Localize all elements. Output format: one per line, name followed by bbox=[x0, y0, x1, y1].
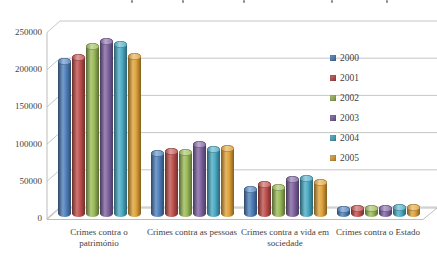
legend-label: 2002 bbox=[340, 93, 359, 103]
cylinder-cap bbox=[272, 184, 285, 191]
cylinder-cap bbox=[207, 146, 220, 153]
legend-swatch-icon bbox=[330, 115, 336, 121]
cylinder-body bbox=[100, 41, 113, 217]
cylinder-body bbox=[314, 183, 327, 218]
y-axis-tick-label: 250000 bbox=[0, 28, 42, 37]
y-axis-tick-label: 0 bbox=[0, 214, 42, 223]
cylinder-cap bbox=[193, 141, 206, 148]
legend-swatch-icon bbox=[330, 95, 336, 101]
legend-swatch-icon bbox=[330, 55, 336, 61]
cylinder-body bbox=[272, 187, 285, 217]
y-axis-tick-label: 100000 bbox=[0, 140, 42, 149]
legend: 200020012002200320042005 bbox=[330, 48, 359, 168]
cylinder-cap bbox=[114, 41, 127, 48]
cylinder-body bbox=[86, 47, 99, 218]
legend-label: 2004 bbox=[340, 133, 359, 143]
cylinder-body bbox=[72, 58, 85, 218]
cylinder-body bbox=[207, 149, 220, 217]
x-axis-category-label: Crimes contra as pessoas bbox=[144, 227, 240, 238]
cylinder-body bbox=[151, 154, 164, 218]
legend-label: 2000 bbox=[340, 53, 359, 63]
legend-entry-2004[interactable]: 2004 bbox=[330, 128, 359, 148]
x-axis-category-label: Crimes contra o património bbox=[51, 227, 147, 249]
cylinder-body bbox=[193, 144, 206, 217]
y-axis-tick-label: 200000 bbox=[0, 65, 42, 74]
y-axis-tick-label: 50000 bbox=[0, 177, 42, 186]
cylinder-body bbox=[165, 152, 178, 218]
cylinder-cap bbox=[351, 205, 364, 212]
cylinder-body bbox=[221, 149, 234, 218]
cylinder-cap bbox=[72, 54, 85, 61]
legend-swatch-icon bbox=[330, 155, 336, 161]
cylinder-body bbox=[258, 185, 271, 218]
cylinder-body bbox=[300, 178, 313, 217]
cylinder-cap bbox=[314, 179, 327, 186]
legend-swatch-icon bbox=[330, 75, 336, 81]
cylinder-body bbox=[58, 61, 71, 217]
legend-entry-2003[interactable]: 2003 bbox=[330, 108, 359, 128]
x-axis-category-label: Crimes contra a vida em sociedade bbox=[237, 227, 333, 249]
legend-label: 2003 bbox=[340, 113, 359, 123]
legend-entry-2005[interactable]: 2005 bbox=[330, 148, 359, 168]
cylinder-body bbox=[244, 189, 257, 217]
cylinder-cap bbox=[151, 150, 164, 157]
cylinder-cap bbox=[365, 205, 378, 212]
cylinder-cap bbox=[286, 176, 299, 183]
legend-label: 2005 bbox=[340, 153, 359, 163]
cylinder-cap bbox=[221, 145, 234, 152]
cylinder-cap bbox=[337, 206, 350, 213]
legend-label: 2001 bbox=[340, 73, 359, 83]
cylinder-cap bbox=[128, 53, 141, 60]
chart-canvas[interactable]: 050000100000150000200000250000 Crimes co… bbox=[0, 0, 437, 261]
cylinder-cap bbox=[100, 38, 113, 45]
legend-swatch-icon bbox=[330, 135, 336, 141]
cylinder-cap bbox=[379, 205, 392, 212]
cylinder-body bbox=[286, 180, 299, 218]
x-axis-category-label: Crimes contra o Estado bbox=[330, 227, 426, 238]
legend-entry-2000[interactable]: 2000 bbox=[330, 48, 359, 68]
cylinder-body bbox=[179, 153, 192, 218]
legend-entry-2001[interactable]: 2001 bbox=[330, 68, 359, 88]
cylinder-cap bbox=[165, 148, 178, 155]
y-axis-tick-label: 150000 bbox=[0, 102, 42, 111]
cylinder-cap bbox=[86, 43, 99, 50]
cylinder-cap bbox=[244, 186, 257, 193]
cylinder-body bbox=[114, 44, 127, 217]
cylinder-cap bbox=[407, 204, 420, 211]
cylinder-cap bbox=[58, 58, 71, 65]
cylinder-body bbox=[128, 56, 141, 217]
cylinder-cap bbox=[300, 175, 313, 182]
legend-entry-2002[interactable]: 2002 bbox=[330, 88, 359, 108]
